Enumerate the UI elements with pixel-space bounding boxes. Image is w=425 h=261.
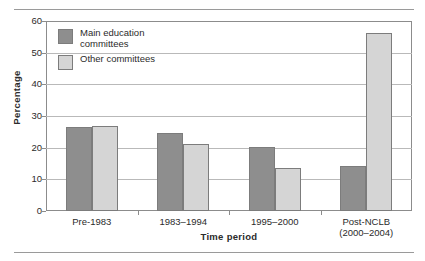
gridline [46,84,412,85]
x-category-label-main: Pre-1983 [72,216,111,227]
y-tick-label: 40 [16,79,42,89]
y-axis-title: Percentage [11,58,22,138]
y-tick-mark [41,21,46,22]
y-tick-mark [41,211,46,212]
bar-main-education-committees [249,147,275,211]
y-tick-label: 0 [16,206,42,216]
bottom-divider-rule [14,252,414,253]
figure-container: Percentage 0102030405060 Pre-19831983–19… [0,0,425,261]
y-tick-label: 10 [16,174,42,184]
x-category-label-main: Post-NCLB [342,216,390,227]
bar-other-committees [275,168,301,211]
legend-item-main-education-committees: Main education committees [58,28,188,49]
x-tick-mark [321,211,322,215]
bar-other-committees [366,33,392,211]
y-tick-label: 50 [16,48,42,58]
bar-other-committees [92,126,118,212]
x-category-label-main: 1995–2000 [251,216,299,227]
x-tick-mark [229,211,230,215]
y-tick-label: 20 [16,143,42,153]
legend-swatch-main-education-committees [58,29,73,44]
legend-swatch-other-committees [58,55,73,70]
y-tick-label: 60 [16,16,42,26]
legend-label-main-education-committees: Main education committees [80,28,144,49]
legend-item-other-committees: Other committees [58,54,188,70]
y-tick-label: 30 [16,111,42,121]
gridline [46,116,412,117]
chart-legend: Main education committees Other committe… [58,28,188,75]
x-tick-mark [138,211,139,215]
bar-main-education-committees [340,166,366,211]
x-axis-title: Time period [46,231,412,242]
bar-main-education-committees [66,127,92,211]
bar-other-committees [183,144,209,211]
x-category-label-main: 1983–1994 [159,216,207,227]
legend-label-other-committees: Other committees [80,54,155,65]
bar-main-education-committees [157,133,183,211]
